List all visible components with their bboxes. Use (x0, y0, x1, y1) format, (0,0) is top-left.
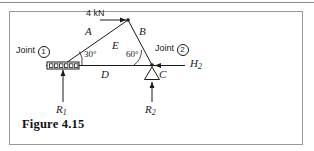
joint-apex-node-dot (126, 18, 130, 22)
roller-support-left (47, 62, 79, 69)
reaction-r1-label: R1 (56, 104, 67, 117)
joint-1-text: Joint (16, 45, 35, 55)
joint-2-text: Joint (155, 43, 174, 53)
reaction-r2-symbol: R (145, 103, 152, 115)
reaction-r2-label: R2 (145, 104, 156, 117)
pin-support-right (145, 67, 160, 80)
figure-container: 4 kN A B C D E 30° 60° Joint 1 Joint 2 R… (0, 0, 314, 151)
reaction-r1-symbol: R (56, 103, 63, 115)
joint-1-number: 1 (38, 46, 50, 58)
load-label-4kn: 4 kN (86, 9, 105, 18)
reaction-h2-label: H2 (190, 58, 202, 71)
member-d-label: D (101, 69, 109, 80)
member-c-label: C (159, 69, 166, 80)
angle-label-30: 30° (84, 50, 97, 59)
reaction-r1-subscript: 1 (63, 108, 67, 117)
member-a-label: A (85, 26, 92, 37)
joint-2-number: 2 (177, 44, 189, 56)
angle-label-60: 60° (126, 50, 139, 59)
joint-1-label: Joint 1 (16, 46, 50, 58)
reaction-h2-symbol: H (190, 57, 198, 69)
joint-2-label: Joint 2 (155, 44, 189, 56)
figure-caption: Figure 4.15 (22, 117, 84, 132)
reaction-r2-subscript: 2 (152, 108, 156, 117)
reaction-h2-subscript: 2 (198, 62, 202, 71)
member-e-label: E (112, 40, 119, 51)
member-b-label: B (139, 26, 146, 37)
